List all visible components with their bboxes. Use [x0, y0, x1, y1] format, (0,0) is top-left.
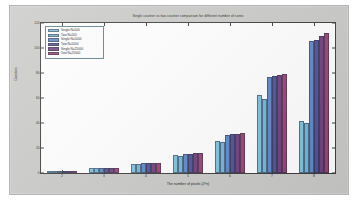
plot-axes: 020406080100120 2345678 Single N=500Two …: [40, 22, 336, 174]
bar: [257, 95, 262, 173]
bar-group: [293, 23, 335, 173]
bar: [314, 40, 319, 173]
y-tick-mark: [41, 73, 44, 74]
y-tick-mark: [41, 23, 44, 24]
x-tick-mark-top: [314, 23, 315, 26]
bar: [131, 164, 136, 174]
y-tick-mark-right: [332, 148, 335, 149]
bar: [183, 154, 188, 174]
bar: [136, 164, 141, 173]
bar: [282, 74, 287, 173]
x-tick-label: 4: [145, 174, 147, 178]
legend-label: Single N=500: [61, 29, 80, 32]
bar: [220, 142, 225, 173]
bar: [67, 171, 72, 173]
bar: [156, 163, 161, 173]
y-tick-label: 0: [38, 171, 40, 175]
bar: [309, 41, 314, 174]
x-tick-mark-top: [104, 23, 105, 26]
bar: [319, 36, 324, 174]
bar: [52, 171, 57, 173]
bar: [141, 163, 146, 173]
y-tick-mark-right: [332, 98, 335, 99]
bar-group: [209, 23, 251, 173]
bar: [267, 77, 272, 173]
y-tick-mark-right: [332, 73, 335, 74]
legend-swatch: [48, 52, 59, 55]
x-tick-mark: [146, 170, 147, 173]
bar: [94, 168, 99, 173]
y-tick-mark-right: [332, 23, 335, 24]
x-axis-label: The number of pixels (2^n): [40, 182, 336, 186]
x-tick-label: 2: [61, 174, 63, 178]
legend-swatch: [48, 43, 59, 46]
bar: [235, 134, 240, 174]
bar: [47, 171, 52, 173]
y-tick-mark: [41, 48, 44, 49]
x-tick-label: 6: [229, 174, 231, 178]
legend-label: Two N=5000: [61, 43, 78, 46]
bar: [198, 153, 203, 173]
bar: [277, 75, 282, 173]
chart-title: Single counter vs two counter comparison…: [40, 14, 336, 18]
bar: [114, 168, 119, 173]
bar: [272, 76, 277, 173]
matlab-figure-window: Single counter vs two counter comparison…: [9, 5, 349, 195]
x-tick-mark-top: [146, 23, 147, 26]
bar-group: [125, 23, 167, 173]
bar: [178, 156, 183, 173]
legend-swatch: [48, 34, 59, 37]
bar: [225, 135, 230, 173]
y-tick-label: 20: [36, 146, 40, 150]
legend-label: Two N=25000: [61, 52, 80, 55]
bar: [151, 163, 156, 173]
bar: [299, 121, 304, 174]
legend-swatch: [48, 38, 59, 41]
bar: [324, 33, 329, 173]
legend-item: Two N=25000: [48, 51, 101, 56]
y-tick-label: 80: [36, 71, 40, 75]
bar: [304, 123, 309, 173]
x-tick-label: 7: [271, 174, 273, 178]
y-tick-mark: [41, 98, 44, 99]
bar-group: [167, 23, 209, 173]
x-tick-label: 3: [103, 174, 105, 178]
bar: [193, 153, 198, 173]
legend-swatch: [48, 47, 59, 50]
bar: [109, 168, 114, 173]
x-tick-mark: [230, 170, 231, 173]
y-tick-mark: [41, 148, 44, 149]
y-tick-mark: [41, 123, 44, 124]
x-tick-mark: [104, 170, 105, 173]
bar: [99, 168, 104, 173]
x-tick-mark: [188, 170, 189, 173]
legend-swatch: [48, 29, 59, 32]
x-tick-mark: [272, 170, 273, 173]
y-tick-label: 100: [34, 46, 39, 50]
bar: [240, 133, 245, 173]
x-tick-mark-top: [188, 23, 189, 26]
chart-legend: Single N=500Two N=500Single N=5000Two N=…: [45, 26, 104, 59]
bar: [215, 141, 220, 174]
bar: [230, 134, 235, 173]
y-tick-mark-right: [332, 173, 335, 174]
bar: [57, 171, 62, 173]
x-tick-label: 5: [187, 174, 189, 178]
bar-group: [251, 23, 293, 173]
y-tick-label: 120: [34, 21, 39, 25]
bar: [89, 168, 94, 173]
y-tick-mark-right: [332, 123, 335, 124]
y-tick-mark: [41, 173, 44, 174]
y-tick-label: 60: [36, 96, 40, 100]
x-tick-mark: [62, 170, 63, 173]
x-tick-mark: [314, 170, 315, 173]
bar: [72, 171, 77, 173]
y-tick-mark-right: [332, 48, 335, 49]
y-tick-label: 40: [36, 121, 40, 125]
bar: [262, 99, 267, 173]
x-tick-label: 8: [313, 174, 315, 178]
chart-screenshot: Single counter vs two counter comparison…: [0, 0, 360, 201]
bar: [173, 155, 178, 173]
y-axis-label: Duration: [14, 54, 18, 94]
x-tick-mark-top: [272, 23, 273, 26]
